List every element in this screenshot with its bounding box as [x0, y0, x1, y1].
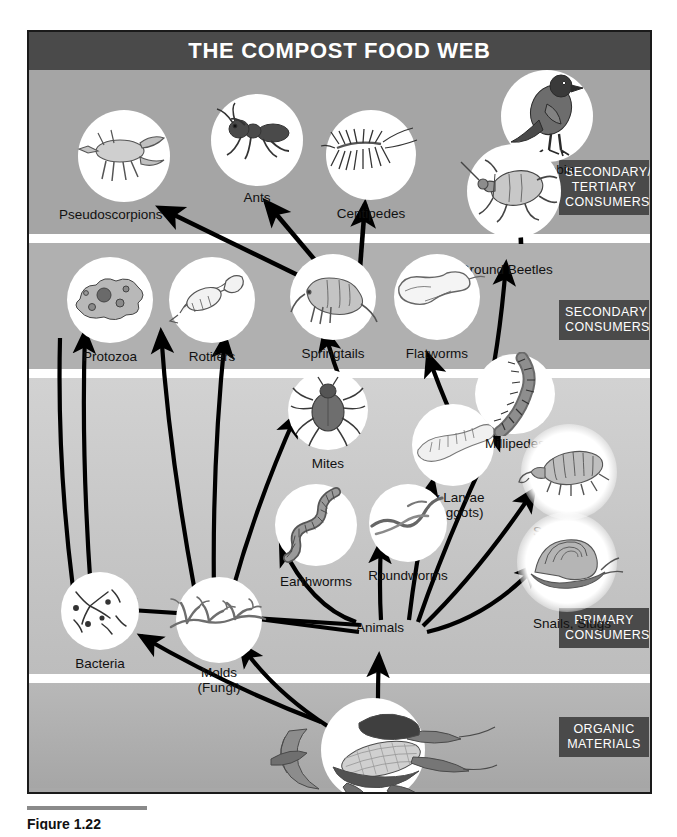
flatworms-label: Flatworms	[406, 346, 468, 361]
animals-label: Animals	[356, 620, 404, 635]
centipede-icon	[315, 114, 427, 194]
earthworms-label: Earthworms	[280, 574, 352, 589]
level-tag-line-3: CONSUMERS	[565, 195, 643, 210]
ground-beetle-icon	[459, 146, 571, 238]
compost-food-web-figure: THE COMPOST FOOD WEB	[27, 30, 652, 794]
snail-slug-icon	[513, 520, 625, 604]
rotifers-label: Rotifers	[189, 349, 236, 364]
protozoa-icon	[62, 265, 158, 333]
rotifer-icon	[164, 265, 260, 333]
springtails-label: Springtails	[301, 346, 364, 361]
level-tag-line-2: TERTIARY	[565, 180, 643, 195]
mold-fungi-icon	[163, 587, 275, 651]
pseudoscorpion-icon	[74, 121, 174, 191]
molds-label: Molds	[201, 665, 237, 680]
molds-label-2: (Fungi)	[198, 680, 241, 695]
level-tag-line-2: CONSUMERS	[565, 320, 643, 335]
caption-rule	[27, 806, 147, 810]
springtail-icon	[281, 260, 385, 332]
level-tag-line-1: ORGANIC	[565, 722, 643, 737]
level-tag-secondary: SECONDARY CONSUMERS	[559, 300, 649, 340]
level-tag-line-2: MATERIALS	[565, 737, 643, 752]
flatworm-icon	[385, 261, 489, 327]
sowbug-icon	[515, 436, 623, 508]
figure-caption: Figure 1.22	[27, 806, 327, 830]
pseudoscorpions-label: Pseudoscorpions	[59, 207, 163, 222]
figure-title: THE COMPOST FOOD WEB	[188, 38, 490, 64]
roundworm-icon	[364, 492, 452, 548]
ants-label: Ants	[243, 190, 270, 205]
millipede-icon	[474, 352, 560, 436]
level-tag-line-1: SECONDARY	[565, 305, 643, 320]
bacteria-icon	[58, 576, 142, 644]
earthworm-icon	[272, 484, 360, 564]
caption-text: Figure 1.22	[27, 816, 327, 830]
protozoa-label: Protozoa	[83, 349, 137, 364]
band-separator-3	[29, 674, 650, 683]
mites-label: Mites	[312, 456, 344, 471]
centipedes-label: Centipedes	[337, 206, 405, 221]
snails-slugs-label: Snails, Slugs	[533, 616, 611, 631]
compost-scraps-icon	[263, 697, 499, 794]
ant-icon	[205, 97, 309, 175]
level-tag-organic-materials: ORGANIC MATERIALS	[559, 717, 649, 757]
roundworms-label: Roundworms	[368, 568, 448, 583]
mite-icon	[283, 372, 373, 448]
bacteria-label: Bacteria	[75, 656, 125, 671]
